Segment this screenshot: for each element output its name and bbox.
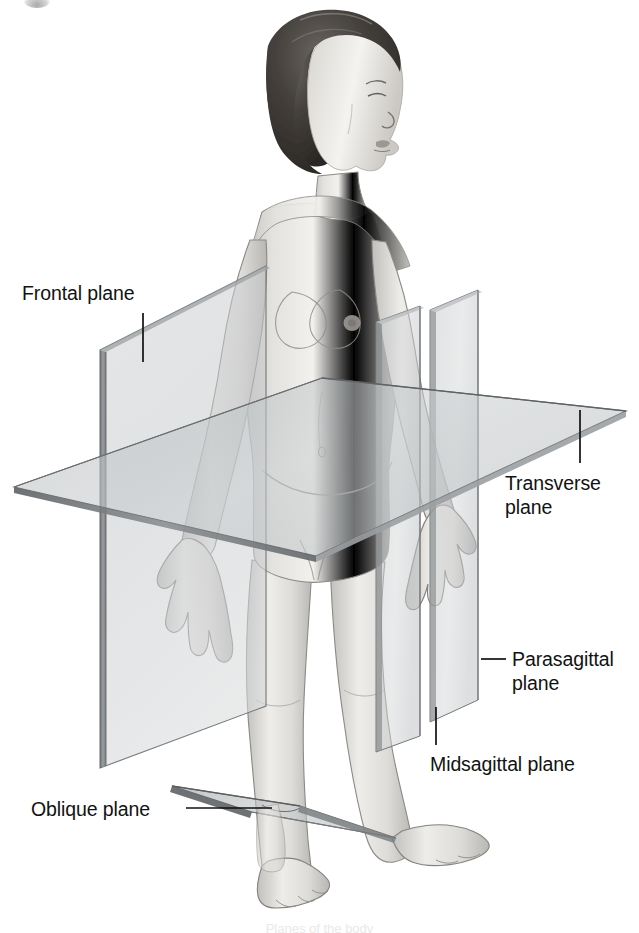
label-parasagittal-plane: Parasagittal plane (512, 647, 614, 695)
label-oblique-plane: Oblique plane (31, 797, 150, 821)
figure-caption-partial: Planes of the body (0, 921, 639, 933)
figure-artwork (0, 0, 639, 933)
anatomical-planes-figure: Frontal plane Transverse plane Parasagit… (0, 0, 639, 933)
label-frontal-plane: Frontal plane (22, 281, 135, 305)
label-midsagittal-plane: Midsagittal plane (430, 752, 575, 776)
parasagittal-plane (430, 290, 482, 722)
label-transverse-plane: Transverse plane (505, 471, 601, 519)
